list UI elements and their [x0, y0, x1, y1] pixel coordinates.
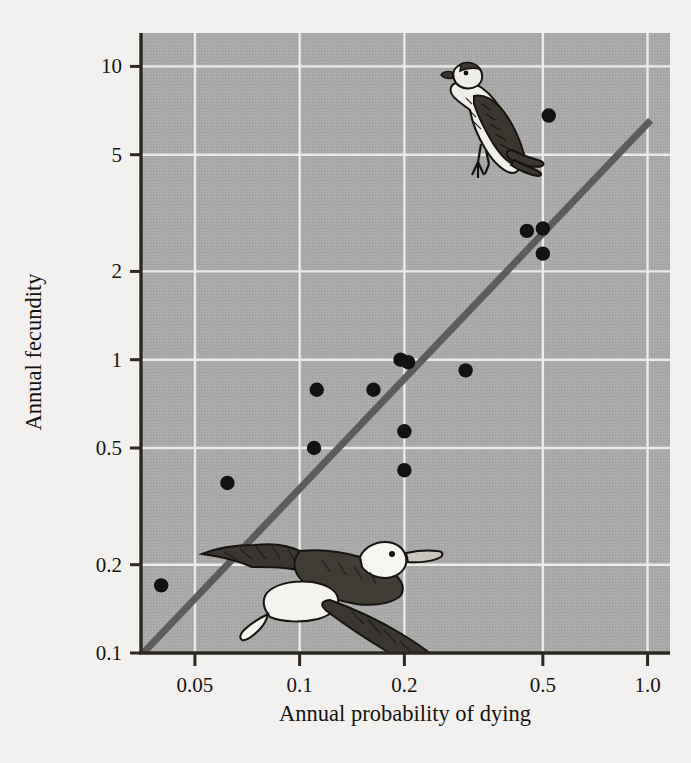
data-point: [520, 224, 534, 238]
data-point: [154, 578, 168, 592]
data-point: [458, 363, 472, 377]
data-point: [397, 463, 411, 477]
y-tick-label: 0.5: [96, 436, 122, 460]
data-point: [401, 355, 415, 369]
y-tick-label: 10: [101, 54, 122, 78]
data-point: [397, 424, 411, 438]
data-point: [310, 383, 324, 397]
data-point: [220, 476, 234, 490]
x-tick-label: 0.5: [530, 673, 556, 697]
y-tick-label: 2: [112, 259, 123, 283]
y-tick-label: 0.1: [96, 641, 122, 665]
x-tick-label: 0.05: [177, 673, 214, 697]
figure-container: 0.10.20.512510 0.050.10.20.51.0 Annual p…: [0, 0, 691, 763]
y-tick-label: 5: [112, 143, 123, 167]
data-point: [542, 108, 556, 122]
x-tick-label: 0.1: [287, 673, 313, 697]
y-tick-label: 0.2: [96, 553, 122, 577]
x-tick-label: 1.0: [634, 673, 660, 697]
data-point: [366, 383, 380, 397]
y-tick-label: 1: [112, 348, 123, 372]
data-point: [536, 221, 550, 235]
x-tick-label: 0.2: [391, 673, 417, 697]
scatter-plot-figure: 0.10.20.512510 0.050.10.20.51.0 Annual p…: [0, 0, 691, 763]
data-point: [536, 246, 550, 260]
x-axis-title: Annual probability of dying: [279, 701, 531, 726]
data-point: [307, 441, 321, 455]
y-axis-title: Annual fecundity: [21, 273, 46, 431]
